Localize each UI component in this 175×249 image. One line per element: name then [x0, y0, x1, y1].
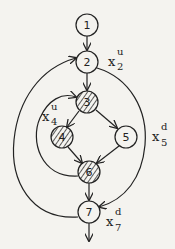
svg-text:5: 5	[161, 137, 167, 148]
label-x2u: x u 2	[108, 46, 124, 72]
node-2: 2	[76, 51, 98, 73]
svg-text:1: 1	[84, 19, 91, 32]
svg-text:3: 3	[84, 96, 91, 109]
svg-text:x: x	[42, 109, 50, 124]
svg-text:u: u	[117, 46, 124, 57]
edge-3-4	[67, 111, 79, 127]
node-7: 7	[78, 201, 100, 223]
svg-text:x: x	[152, 129, 160, 144]
label-x7d: x d 7	[106, 206, 122, 233]
node-1: 1	[76, 14, 98, 36]
label-x5d: x d 5	[152, 121, 168, 148]
svg-text:2: 2	[117, 61, 123, 72]
svg-text:7: 7	[115, 222, 121, 233]
node-5: 5	[115, 126, 137, 148]
svg-text:4: 4	[51, 116, 57, 127]
edge-5-6	[97, 146, 119, 163]
node-4: 4	[51, 126, 73, 148]
label-x4u: x u 4	[42, 101, 58, 127]
svg-text:6: 6	[86, 166, 93, 179]
node-3: 3	[76, 91, 98, 113]
svg-text:d: d	[161, 121, 168, 132]
edge-4-6	[68, 147, 82, 163]
node-6: 6	[78, 161, 100, 183]
svg-text:x: x	[106, 214, 114, 229]
svg-text:x: x	[108, 54, 116, 69]
flow-graph: 1 2 3 4 5 6 7 x u 2 x u 4 x d 5 x d	[0, 0, 175, 249]
svg-text:d: d	[115, 206, 122, 217]
svg-text:2: 2	[84, 56, 91, 69]
edge-3-5	[96, 110, 117, 128]
svg-text:5: 5	[123, 131, 130, 144]
svg-text:4: 4	[59, 131, 66, 144]
svg-text:7: 7	[86, 206, 93, 219]
svg-text:u: u	[51, 101, 58, 112]
